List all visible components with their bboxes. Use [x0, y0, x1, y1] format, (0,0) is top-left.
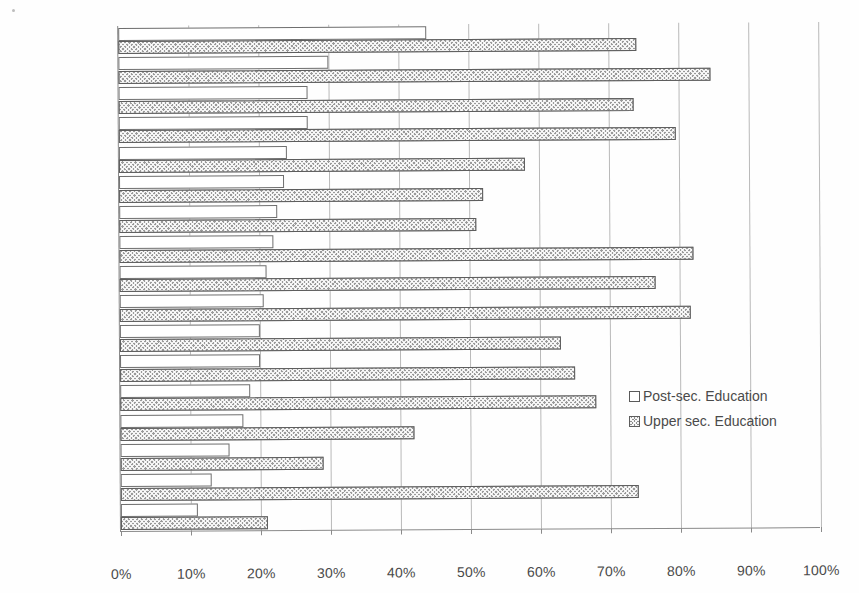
bar-post-sec [118, 26, 426, 41]
bar-row: Norway [119, 111, 818, 145]
bar-upper-sec [119, 218, 476, 233]
bar-post-sec [120, 265, 267, 279]
bar-row: United Kingd. [120, 260, 819, 294]
bar-post-sec [119, 175, 284, 189]
x-tick-label: 10% [177, 566, 206, 582]
bar-row: Australia [119, 201, 818, 235]
bar-post-sec [119, 116, 308, 130]
legend-item: Upper sec. Education [629, 409, 777, 434]
x-tick-label: 20% [247, 565, 276, 581]
bar-upper-sec [119, 246, 693, 262]
bar-post-sec [119, 86, 308, 100]
scan-artifact-speck [12, 9, 15, 12]
x-tick-label: 80% [667, 563, 696, 579]
x-tick-label: 50% [457, 564, 486, 580]
bar-upper-sec [119, 127, 676, 143]
bar-row: Denmark [120, 320, 819, 354]
x-tick-label: 100% [803, 562, 840, 578]
chart-legend: Post-sec. EducationUpper sec. Education [629, 384, 777, 434]
bar-post-sec [121, 503, 198, 516]
bar-upper-sec [119, 158, 525, 173]
plot-area: CanadaUSASwedenNorwayNew ZealandBelgiumA… [117, 22, 820, 532]
bar-row: Germany [119, 230, 818, 264]
bar-row: New Zealand [119, 141, 818, 175]
legend-swatch-post-sec-icon [629, 391, 640, 402]
bar-upper-sec [120, 276, 656, 292]
legend-label: Upper sec. Education [643, 409, 777, 434]
bar-row: Portugal [121, 498, 820, 532]
legend-item: Post-sec. Education [629, 384, 777, 409]
bar-post-sec [120, 295, 264, 309]
x-tick-label: 40% [387, 564, 416, 580]
x-tick [821, 527, 822, 532]
bar-upper-sec [120, 306, 691, 322]
bar-upper-sec [120, 336, 561, 351]
bar-post-sec [121, 474, 212, 488]
bar-chart: CanadaUSASwedenNorwayNew ZealandBelgiumA… [0, 0, 859, 593]
bar-upper-sec [121, 485, 639, 501]
bar-row: USA [118, 52, 817, 86]
legend-label: Post-sec. Education [643, 384, 768, 409]
bar-upper-sec [120, 426, 414, 441]
bar-post-sec [119, 205, 277, 219]
bar-upper-sec [120, 366, 575, 382]
bar-row: Switzerland [120, 290, 819, 324]
bar-row: Poland [121, 469, 820, 503]
bar-post-sec [121, 444, 230, 458]
bar-post-sec [119, 235, 273, 249]
x-tick-label: 60% [527, 564, 556, 580]
bar-row: Canada [118, 22, 817, 56]
bar-row: Belgium [119, 171, 818, 205]
bar-row: Finland [120, 349, 819, 383]
bar-upper-sec [121, 517, 268, 531]
bar-rows: CanadaUSASwedenNorwayNew ZealandBelgiumA… [118, 22, 817, 26]
bar-upper-sec [118, 38, 636, 54]
bar-upper-sec [120, 396, 596, 412]
bar-post-sec [118, 56, 328, 70]
bar-upper-sec [119, 98, 634, 114]
bar-post-sec [120, 324, 260, 338]
bar-upper-sec [121, 457, 324, 471]
x-tick-label: 0% [111, 566, 132, 582]
bar-post-sec [120, 354, 260, 368]
bar-post-sec [120, 414, 243, 428]
bar-row: Sweden [119, 82, 818, 116]
bar-row: Spain [121, 439, 820, 473]
bar-post-sec [120, 384, 250, 398]
x-tick-label: 90% [737, 562, 766, 578]
bar-upper-sec [119, 188, 483, 203]
bar-upper-sec [118, 68, 710, 84]
legend-swatch-upper-sec-icon [629, 416, 640, 427]
x-tick-label: 30% [317, 565, 346, 581]
x-tick-label: 70% [597, 563, 626, 579]
bar-post-sec [119, 146, 287, 160]
